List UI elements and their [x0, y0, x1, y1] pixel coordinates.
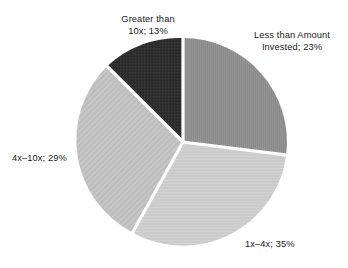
pie-label-4x-10x-line1: 4x–10x; 29%: [12, 153, 67, 165]
pie-slice-less-than-invested: [183, 38, 287, 155]
pie-label-greater-than-10x: Greater than 10x; 13%: [96, 14, 200, 37]
pie-label-4x-10x: 4x–10x; 29%: [12, 153, 67, 165]
pie-chart: Greater than 10x; 13% Less than Amount I…: [0, 0, 348, 268]
pie-label-greater-than-10x-line1: Greater than: [96, 14, 200, 26]
pie-label-less-than-invested-line1: Less than Amount: [240, 30, 344, 42]
pie-label-less-than-invested-line2: Invested; 23%: [240, 42, 344, 54]
pie-label-1x-4x: 1x–4x; 35%: [245, 239, 295, 251]
pie-label-less-than-invested: Less than Amount Invested; 23%: [240, 30, 344, 53]
pie-label-greater-than-10x-line2: 10x; 13%: [96, 26, 200, 38]
pie-label-1x-4x-line1: 1x–4x; 35%: [245, 239, 295, 251]
